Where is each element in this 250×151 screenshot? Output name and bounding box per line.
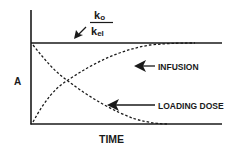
infusion-arrow-icon: [134, 60, 155, 72]
y-axis-label: A: [14, 76, 21, 87]
x-axis-label: TIME: [99, 133, 124, 145]
fraction-denominator: kel: [91, 25, 104, 38]
plateau-fraction-label: ko kel: [90, 9, 113, 38]
loading-dose-label: LOADING DOSE: [158, 101, 224, 111]
loading-dose-arrow-icon: [107, 99, 155, 111]
plateau-arrow-icon: [74, 27, 86, 39]
infusion-label: INFUSION: [158, 62, 199, 72]
pharmacokinetics-diagram: INFUSION LOADING DOSE ko kel A TIME: [0, 0, 250, 151]
fraction-numerator: ko: [94, 9, 105, 22]
loading-dose-curve: [33, 45, 168, 124]
